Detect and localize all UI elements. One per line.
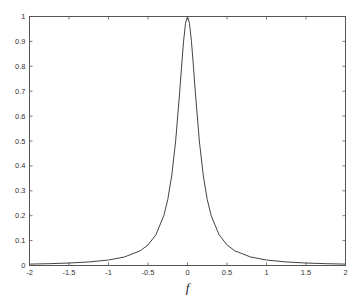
y-tick-label: 0.2 — [15, 211, 25, 220]
x-tick-label: -1 — [105, 268, 112, 277]
y-tick-label: 0.4 — [15, 161, 25, 170]
x-tick-label: 1.5 — [301, 268, 311, 277]
line-chart: -2-1.5-1-0.500.511.5200.10.20.30.40.50.6… — [0, 0, 356, 303]
y-tick-label: 0.5 — [15, 137, 25, 146]
x-axis-label: f — [186, 280, 192, 295]
axis-ticks — [30, 17, 346, 266]
x-tick-label: 0 — [185, 268, 189, 277]
x-tick-label: 0.5 — [222, 268, 232, 277]
plot-frame — [30, 17, 346, 266]
x-tick-label: 2 — [343, 268, 347, 277]
x-tick-label: -1.5 — [63, 268, 76, 277]
y-tick-label: 0.1 — [15, 236, 25, 245]
y-tick-label: 1 — [21, 12, 25, 21]
x-tick-label: -0.5 — [142, 268, 155, 277]
tick-labels: -2-1.5-1-0.500.511.5200.10.20.30.40.50.6… — [15, 12, 348, 277]
y-tick-label: 0.6 — [15, 112, 25, 121]
y-tick-label: 0.9 — [15, 37, 25, 46]
x-tick-label: -2 — [26, 268, 33, 277]
y-tick-label: 0.8 — [15, 62, 25, 71]
y-tick-label: 0.3 — [15, 186, 25, 195]
y-tick-label: 0.7 — [15, 87, 25, 96]
x-tick-label: 1 — [264, 268, 268, 277]
y-tick-label: 0 — [21, 261, 25, 270]
series-line-lorentzian — [30, 17, 346, 265]
